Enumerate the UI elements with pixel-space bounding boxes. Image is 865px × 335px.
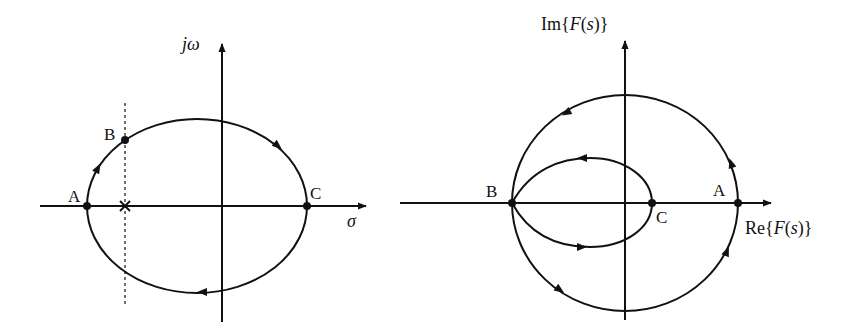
- sigma-axis-label: σ: [347, 211, 357, 231]
- s-plane-diagram: A B C jω σ: [40, 34, 366, 322]
- f-plane-diagram: B C A Im{F(s)} Re{F(s)}: [400, 14, 812, 320]
- point-b-label: B: [104, 125, 115, 144]
- point-b-dot: [508, 199, 516, 207]
- point-a-label: A: [713, 181, 726, 200]
- direction-arrow-icon: [577, 243, 587, 251]
- imag-axis-label: Im{F(s)}: [541, 14, 608, 35]
- point-c-dot: [648, 199, 656, 207]
- point-a-label: A: [68, 187, 81, 206]
- point-b-dot: [121, 136, 129, 144]
- point-c-label: C: [656, 208, 667, 227]
- point-a-dot: [83, 202, 91, 210]
- direction-arrow-icon: [577, 154, 587, 162]
- point-b-label: B: [486, 182, 497, 201]
- point-a-dot: [734, 199, 742, 207]
- direction-arrow-icon: [197, 288, 207, 296]
- nyquist-mapping-figure: A B C jω σ B C A Im{F(s)} Re{F: [0, 0, 865, 335]
- real-axis-label: Re{F(s)}: [745, 218, 812, 239]
- point-c-label: C: [310, 184, 321, 203]
- jomega-axis-label: jω: [180, 34, 200, 54]
- point-c-dot: [303, 202, 311, 210]
